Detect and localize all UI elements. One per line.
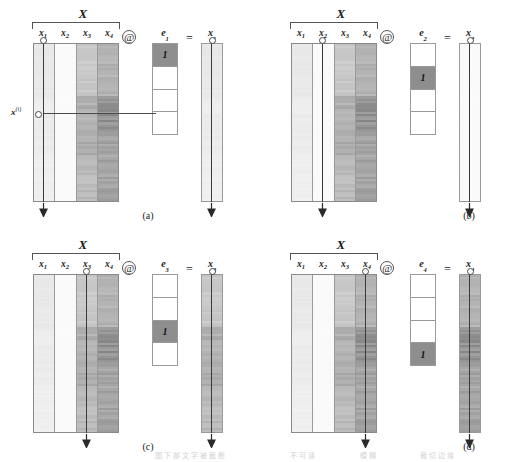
result-vector-d — [459, 274, 481, 433]
matrix-c — [33, 274, 119, 433]
column-label-x3-a: x3 — [76, 26, 98, 41]
texture-x3-b — [335, 44, 355, 201]
down-arrow-matrix-c — [82, 434, 91, 448]
texture-x4-c — [98, 275, 118, 432]
panel-c: X x1 x2 x3 x4 @ e3 1 = x3 — [0, 231, 258, 462]
texture-x2-d — [313, 275, 333, 432]
footnote-part-b: 不可读 — [290, 450, 317, 460]
column-label-x4-b: x4 — [356, 26, 378, 41]
down-arrow-result-b — [465, 203, 474, 217]
row-indicator-marker-a — [35, 111, 42, 118]
texture-x2-b — [313, 44, 333, 201]
matrix-title-d: X — [321, 237, 361, 253]
matrix-column-x4-a — [98, 44, 118, 201]
column-label-x1-d: x1 — [290, 257, 312, 272]
evector-label-b: e2 — [406, 27, 440, 40]
texture-result-b — [460, 44, 480, 201]
figure-root: X x1 x2 x3 x4 x(i) @ e1 1 = — [0, 0, 516, 462]
column-label-x1-c: x1 — [32, 257, 54, 272]
matrix-column-x1-b — [292, 44, 313, 201]
selected-column-marker-c — [83, 268, 90, 275]
evector-cell-1-b — [411, 44, 435, 67]
evector-cell-4-d: 1 — [411, 343, 435, 365]
matrix-title-a: X — [63, 6, 103, 22]
texture-x3-d — [335, 275, 355, 432]
column-labels-b: x1 x2 x3 x4 — [290, 26, 378, 41]
evector-c: 1 — [152, 274, 178, 366]
down-arrow-result-d — [465, 434, 474, 448]
texture-x4-b — [356, 44, 376, 201]
texture-result-c — [202, 275, 222, 432]
evector-cell-1-d — [411, 275, 435, 298]
evector-label-d: e4 — [406, 258, 440, 271]
matrix-column-x2-b — [313, 44, 334, 201]
evector-cell-3-b — [411, 90, 435, 113]
texture-x1-c — [34, 275, 54, 432]
evector-cell-4-a — [153, 112, 177, 134]
result-vector-c — [201, 274, 223, 433]
evector-cell-3-a — [153, 90, 177, 113]
matrix-column-x2-d — [313, 275, 334, 432]
texture-x4-a — [98, 44, 118, 201]
panel-a: X x1 x2 x3 x4 x(i) @ e1 1 = — [0, 0, 258, 231]
evector-a: 1 — [152, 43, 178, 135]
matrix-column-x3-d — [335, 275, 356, 432]
operator-at-c: @ — [122, 261, 136, 275]
texture-x1-b — [292, 44, 312, 201]
evector-cell-2-d — [411, 298, 435, 321]
footnote-part-d: 裁切边缘 — [420, 450, 456, 460]
evector-cell-2-c — [153, 298, 177, 321]
footnote-part-c: 模糊 — [360, 450, 378, 460]
result-column-line-c — [211, 274, 212, 433]
column-labels-c: x1 x2 x3 x4 — [32, 257, 120, 272]
down-arrow-matrix-a — [39, 203, 48, 217]
down-arrow-matrix-b — [318, 203, 327, 217]
column-label-x2-a: x2 — [54, 26, 76, 41]
column-label-x3-d: x3 — [334, 257, 356, 272]
texture-x1-d — [292, 275, 312, 432]
row-indicator-line-a — [44, 113, 156, 114]
matrix-column-x3-b — [335, 44, 356, 201]
result-column-line-d — [469, 274, 470, 433]
panel-caption-a: (a) — [133, 210, 163, 221]
matrix-column-x1-d — [292, 275, 313, 432]
column-label-x2-c: x2 — [54, 257, 76, 272]
texture-x1-a — [34, 44, 54, 201]
column-label-x1-b: x1 — [290, 26, 312, 41]
texture-x3-a — [77, 44, 97, 201]
texture-result-a — [202, 44, 222, 201]
evector-b: 1 — [410, 43, 436, 135]
down-arrow-result-c — [207, 434, 216, 448]
evector-label-c: e3 — [148, 258, 182, 271]
result-column-marker-c — [209, 268, 216, 275]
result-column-marker-d — [467, 268, 474, 275]
operator-at-d: @ — [380, 261, 394, 275]
result-column-marker-b — [467, 37, 474, 44]
selected-column-marker-b — [319, 37, 326, 44]
evector-cell-2-b: 1 — [411, 67, 435, 90]
texture-result-d — [460, 275, 480, 432]
operator-equals-c: = — [186, 262, 193, 277]
matrix-column-x3-c — [77, 275, 98, 432]
matrix-b — [291, 43, 377, 202]
evector-cell-3-c: 1 — [153, 321, 177, 344]
matrix-column-x2-a — [55, 44, 76, 201]
evector-cell-4-b — [411, 112, 435, 134]
selected-column-line-b — [322, 43, 323, 202]
evector-cell-1-a: 1 — [153, 44, 177, 67]
operator-equals-d: = — [444, 262, 451, 277]
matrix-column-x1-c — [34, 275, 55, 432]
evector-cell-2-a — [153, 67, 177, 90]
column-label-x4-a: x4 — [98, 26, 120, 41]
texture-x2-a — [55, 44, 75, 201]
evector-label-a: e1 — [148, 27, 182, 40]
column-label-x3-b: x3 — [334, 26, 356, 41]
result-column-line-b — [469, 43, 470, 202]
evector-cell-4-c — [153, 343, 177, 365]
matrix-column-x1-a — [34, 44, 55, 201]
operator-at-a: @ — [122, 30, 136, 44]
result-vector-a — [201, 43, 223, 202]
operator-equals-a: = — [186, 31, 193, 46]
result-column-marker-a — [209, 37, 216, 44]
footnote-part-a: 图下部文字被截断 — [155, 450, 227, 460]
